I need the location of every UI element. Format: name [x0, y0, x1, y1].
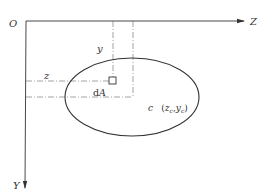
z-axis-label: Z [249, 16, 258, 27]
diagram-canvas: O Z Y y z dA c (zc,yc) [0, 0, 269, 195]
y-axis [25, 21, 26, 188]
area-element-label: dA [93, 87, 106, 98]
distance-z-label: z [43, 70, 50, 81]
area-element-square [109, 77, 116, 84]
centroid-label: c (zc,yc) [148, 103, 188, 114]
y-axis-label: Y [13, 180, 21, 191]
distance-y-label: y [96, 43, 103, 54]
origin-label: O [9, 18, 17, 29]
